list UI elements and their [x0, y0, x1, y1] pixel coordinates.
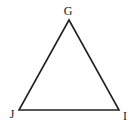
vertex-label-i: I [123, 109, 127, 123]
vertex-label-g: G [64, 4, 73, 18]
triangle-gji [19, 20, 119, 110]
vertex-label-j: J [10, 107, 15, 121]
triangle-diagram: G J I [0, 0, 136, 132]
